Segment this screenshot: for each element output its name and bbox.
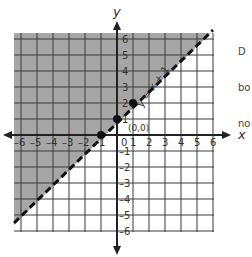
x-tick-label: 1	[130, 137, 136, 148]
x-axis-left-arrow-icon	[3, 131, 12, 139]
inequality-graph: –6–5–4–3–2–10123456 654321–1–2–3–4–5–6 x…	[0, 0, 252, 257]
side-text-line-2: bo	[238, 82, 250, 94]
x-tick-label: –3	[62, 137, 73, 148]
side-text-line-1: D	[238, 46, 250, 58]
y-tick-label: –1	[119, 146, 130, 157]
x-tick-label: –5	[30, 137, 41, 148]
x-tick-label: –6	[14, 137, 25, 148]
y-tick-label: 3	[122, 82, 128, 93]
x-tick-label: –2	[78, 137, 89, 148]
origin-label: (0,0)	[128, 123, 149, 133]
x-tick-label: –1	[94, 137, 105, 148]
y-tick-label: 5	[122, 50, 128, 61]
y-tick-label: –6	[119, 226, 130, 237]
y-tick-label: –2	[119, 162, 130, 173]
x-tick-label: –4	[46, 137, 57, 148]
y-axis-label: y	[112, 4, 121, 19]
y-axis-up-arrow-icon	[113, 21, 121, 30]
side-text-line-3: no	[238, 118, 250, 130]
x-tick-label: 3	[162, 137, 168, 148]
y-tick-label: 2	[122, 98, 128, 109]
x-tick-label: 4	[178, 137, 184, 148]
x-tick-label: 5	[194, 137, 200, 148]
y-tick-label: –4	[119, 194, 130, 205]
side-text: D bo no	[238, 22, 250, 142]
y-tick-label: 4	[122, 66, 128, 77]
point-0-1	[113, 115, 121, 123]
x-tick-label: 6	[210, 137, 216, 148]
x-axis-right-arrow-icon	[222, 131, 231, 139]
x-tick-label: 2	[146, 137, 152, 148]
y-axis-down-arrow-icon	[113, 246, 121, 255]
y-tick-label: 6	[122, 34, 128, 45]
y-tick-label: –3	[119, 178, 130, 189]
y-tick-label: –5	[119, 210, 130, 221]
